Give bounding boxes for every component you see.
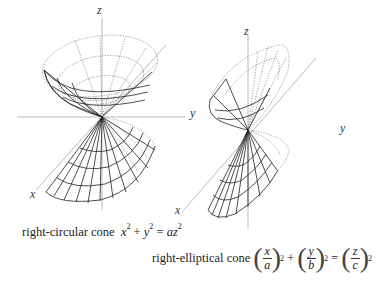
- eq-term-z-over-c: (zc)2: [341, 244, 372, 272]
- z-axis-label-circular: z: [97, 3, 102, 18]
- eq-term-y-over-b: (yb)2: [297, 244, 328, 272]
- elliptical-cone-figure: [182, 35, 316, 228]
- y-axis-label-elliptical: y: [340, 121, 345, 136]
- circular-cone-caption: right-circular cone x2 + y2 = az2: [22, 222, 182, 240]
- x-axis-label-circular: x: [30, 187, 35, 202]
- eq-plus: +: [287, 251, 294, 266]
- circular-cone-figure: [17, 18, 185, 210]
- eq-equals: =: [331, 251, 338, 266]
- eq-plus: +: [134, 225, 141, 239]
- circular-cone-name: right-circular cone: [22, 225, 115, 239]
- eq-term-x-over-a: (xa)2: [253, 244, 284, 272]
- x-axis-label-elliptical: x: [175, 203, 180, 218]
- y-axis-label-circular: y: [190, 106, 195, 121]
- eq-exp: 2: [149, 222, 153, 231]
- eq-exp: 2: [126, 222, 130, 231]
- eq-az: az: [167, 225, 178, 239]
- elliptical-cone-caption: right-elliptical cone (xa)2 + (yb)2 = (z…: [152, 244, 372, 272]
- z-axis-label-elliptical: z: [244, 24, 249, 39]
- elliptical-cone-name: right-elliptical cone: [152, 251, 250, 266]
- eq-equals: =: [156, 225, 163, 239]
- eq-exp: 2: [178, 222, 182, 231]
